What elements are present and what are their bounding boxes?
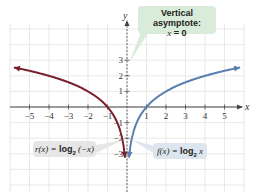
grid xyxy=(10,24,245,192)
svg-text:3: 3 xyxy=(119,55,124,65)
svg-text:−3: −3 xyxy=(113,149,123,159)
svg-text:3: 3 xyxy=(183,111,188,121)
r-function-label: r(x) = log2 (−x) xyxy=(33,141,96,157)
log-function-graph: −5−4−3−2−112345321−1−2−3 x y xyxy=(0,0,255,195)
svg-text:2: 2 xyxy=(119,71,124,81)
f-function-label: f(x) = log2 x xyxy=(153,143,207,159)
asymptote-title: Vertical asymptote: xyxy=(138,8,216,28)
svg-text:−5: −5 xyxy=(25,111,35,121)
svg-text:1: 1 xyxy=(119,86,124,96)
asymptote-callout: Vertical asymptote: x = 0 xyxy=(138,6,216,34)
x-axis-label: x xyxy=(244,101,250,112)
svg-text:−4: −4 xyxy=(44,111,54,121)
axes xyxy=(10,20,243,192)
y-axis-label: y xyxy=(122,10,128,21)
svg-text:1: 1 xyxy=(144,111,149,121)
f-callout-pointer xyxy=(132,140,155,154)
svg-text:2: 2 xyxy=(164,111,169,121)
svg-text:5: 5 xyxy=(222,111,227,121)
svg-text:−2: −2 xyxy=(83,111,93,121)
asymptote-equation: x = 0 xyxy=(138,28,216,38)
svg-text:−3: −3 xyxy=(64,111,74,121)
svg-text:4: 4 xyxy=(203,111,208,121)
